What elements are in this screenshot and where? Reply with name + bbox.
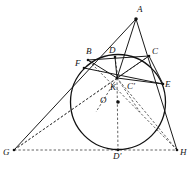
- point-label-cp: C': [127, 82, 135, 91]
- point-label-e: E: [165, 80, 171, 89]
- point-label-b: B: [86, 47, 92, 56]
- vertex-dot-o: [116, 100, 120, 104]
- vertex-dot-d: [114, 56, 117, 59]
- vertex-dot-b: [87, 59, 90, 62]
- point-label-h: H: [180, 148, 187, 157]
- vertex-dot-f: [83, 67, 86, 70]
- point-label-f: F: [75, 59, 81, 68]
- segment-C-K: [117, 56, 149, 78]
- segment-H-B: [88, 60, 177, 150]
- point-label-g: G: [3, 148, 10, 157]
- vertex-dot-g: [13, 149, 16, 152]
- point-label-c: C: [152, 47, 158, 56]
- geometry-figure: ABDCFKC'EOGD'H: [0, 0, 192, 176]
- point-label-d: D: [109, 46, 116, 55]
- segment-C-E: [149, 56, 163, 84]
- vertex-dot-k: [116, 77, 119, 80]
- point-label-o: O: [100, 96, 107, 105]
- vertex-dot-a: [134, 17, 138, 21]
- segment-A-G: [14, 19, 136, 150]
- geometry-canvas: [0, 0, 192, 176]
- segment-F-E: [84, 68, 163, 84]
- point-label-a: A: [137, 5, 143, 14]
- point-label-k: K: [110, 83, 116, 92]
- vertex-dots-group: [13, 17, 179, 151]
- segment-K-Dp: [117, 78, 118, 150]
- vertex-dot-c: [148, 55, 151, 58]
- solid-segments-group: [14, 19, 177, 150]
- segment-A-K: [117, 19, 136, 78]
- point-label-dp: D': [113, 152, 121, 161]
- vertex-dot-e: [162, 83, 165, 86]
- vertex-dot-h: [176, 149, 179, 152]
